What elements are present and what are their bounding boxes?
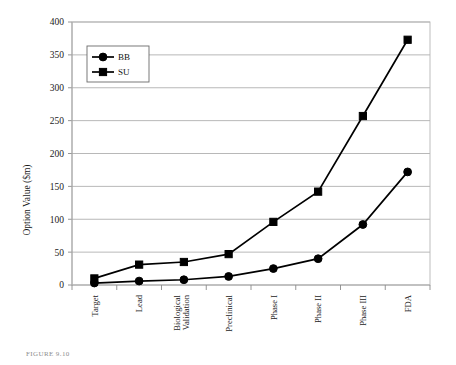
x-category-label: Target <box>90 294 100 316</box>
data-point-marker <box>404 168 412 176</box>
x-category-label-line: Preclinical <box>224 294 234 331</box>
data-point-marker <box>180 258 187 265</box>
x-category-label: BiologicalValidation <box>172 294 191 331</box>
x-category-label: Lead <box>134 294 144 312</box>
data-point-marker <box>225 250 232 257</box>
legend-swatch-marker <box>99 68 106 75</box>
y-tick-label: 300 <box>50 83 65 93</box>
y-tick-label: 350 <box>50 50 65 60</box>
data-point-marker <box>269 265 277 273</box>
x-category-label: Preclinical <box>224 294 234 331</box>
x-category-label: Phase I <box>269 295 279 320</box>
data-point-marker <box>270 218 277 225</box>
x-category-label: FDA <box>403 294 413 312</box>
data-point-marker <box>359 221 367 229</box>
data-point-marker <box>136 261 143 268</box>
chart-legend[interactable]: BBSU <box>87 46 149 82</box>
data-point-marker <box>404 36 411 43</box>
y-tick-label: 50 <box>55 248 65 258</box>
x-category-label-line: FDA <box>403 294 413 312</box>
y-tick-label: 400 <box>50 17 65 27</box>
legend-label: BB <box>118 52 130 62</box>
x-category-label: Phase III <box>358 295 368 326</box>
y-tick-label: 250 <box>50 116 65 126</box>
y-tick-label: 0 <box>59 280 64 290</box>
data-point-marker <box>314 255 322 263</box>
line-chart: 050100150200250300350400 TargetLeadBiolo… <box>0 0 456 365</box>
y-axis-title: Option Value ($m) <box>22 164 33 235</box>
x-category-label-line: Phase III <box>358 295 368 326</box>
legend-swatch-marker <box>99 53 107 61</box>
data-point-marker <box>180 276 188 284</box>
y-tick-label: 100 <box>50 215 65 225</box>
y-tick-label: 200 <box>50 149 65 159</box>
data-point-marker <box>225 273 233 281</box>
x-category-label-line: Phase I <box>269 295 279 320</box>
x-category-label-line: Validation <box>181 294 191 330</box>
legend-label: SU <box>118 67 130 77</box>
data-point-marker <box>91 275 98 282</box>
x-category-label-line: Target <box>90 294 100 316</box>
y-tick-label: 150 <box>50 182 65 192</box>
data-point-marker <box>359 112 366 119</box>
x-category-label: Phase II <box>313 295 323 323</box>
x-category-label-line: Phase II <box>313 295 323 323</box>
data-point-marker <box>315 188 322 195</box>
data-point-marker <box>135 277 143 285</box>
x-category-label-line: Lead <box>134 294 144 312</box>
figure-caption: FIGURE 9.10 <box>26 350 70 358</box>
chart-figure: 050100150200250300350400 TargetLeadBiolo… <box>0 0 456 365</box>
